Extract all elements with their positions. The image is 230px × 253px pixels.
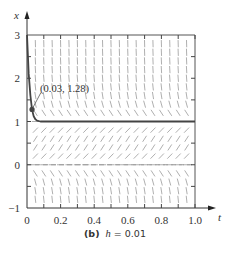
direction-field-segment (152, 92, 153, 99)
direction-field-segment (178, 92, 179, 99)
direction-field-segment (50, 128, 55, 133)
direction-field-segment (151, 170, 155, 176)
direction-field-segment (94, 196, 95, 203)
direction-field-segment (152, 179, 154, 186)
direction-field-segment (68, 179, 70, 186)
direction-field-segment (52, 187, 53, 194)
direction-field-segment (41, 128, 46, 133)
direction-field-segment (102, 196, 103, 203)
direction-field-segment (101, 110, 105, 116)
direction-field-segment (144, 179, 146, 186)
direction-field-segment (35, 92, 36, 99)
direction-field-segment (136, 83, 137, 90)
direction-field-segment (161, 187, 162, 194)
direction-field-segment (86, 75, 87, 82)
direction-field-segment (50, 170, 54, 176)
direction-field-segment (144, 101, 146, 108)
direction-field-segment (102, 187, 103, 194)
direction-field-segment (59, 144, 63, 150)
direction-field-segment (108, 154, 113, 159)
direction-field-segment (69, 75, 70, 82)
direction-field-segment (159, 128, 164, 133)
x-tick-label: 0 (24, 214, 30, 226)
y-tick-label: 3 (15, 29, 21, 41)
direction-field-segment (111, 196, 112, 203)
direction-field-segment (176, 154, 181, 159)
direction-field-segment (143, 144, 147, 150)
direction-field-segment (67, 110, 71, 116)
direction-field-segment (76, 179, 78, 186)
direction-field-segment (119, 187, 120, 194)
x-tick-label: 0.2 (54, 214, 68, 226)
direction-field-segment (109, 110, 113, 116)
y-axis-label: x (13, 9, 19, 21)
direction-field-segment (44, 75, 45, 82)
direction-field-segment (75, 136, 79, 142)
direction-field-segment (50, 110, 54, 116)
direction-field-segment (159, 144, 163, 150)
y-axis-arrow-icon (25, 11, 30, 19)
direction-field-segment (33, 170, 37, 176)
direction-field-segment (185, 170, 189, 176)
direction-field-segment (102, 83, 103, 90)
x-tick-label: 0.4 (87, 214, 101, 226)
x-axis-label: t (218, 211, 222, 223)
direction-field-segment (111, 83, 112, 90)
direction-field-segment (144, 83, 145, 90)
direction-field-segment (84, 144, 88, 150)
direction-field-segment (52, 75, 53, 82)
direction-field-segment (67, 144, 71, 150)
caption-variable: h (106, 228, 111, 239)
direction-field-segment (167, 128, 172, 133)
direction-field-segment (128, 75, 129, 82)
direction-field-segment (75, 154, 80, 159)
direction-field-segment (66, 128, 71, 133)
direction-field-segment (159, 110, 163, 116)
figure-caption: (b) h = 0.01 (0, 228, 230, 239)
direction-field-segment (85, 101, 87, 108)
direction-field-segment (50, 136, 54, 142)
direction-field-segment (176, 110, 180, 116)
direction-field-segment (41, 154, 46, 159)
direction-field-segment (94, 92, 95, 99)
direction-field-segment (184, 128, 189, 133)
direction-field-segment (127, 179, 129, 186)
direction-field-segment (153, 196, 154, 203)
direction-field-segment (168, 110, 172, 116)
direction-field-segment (117, 144, 121, 150)
direction-field-segment (33, 154, 38, 159)
chart: tx00.20.40.60.81.0−10123 (0.03, 1.28) (0, 0, 230, 226)
direction-field-segment (161, 92, 162, 99)
direction-field-segment (102, 92, 103, 99)
direction-field-segment (100, 128, 105, 133)
direction-field-segment (117, 170, 121, 176)
direction-field-segment (186, 75, 187, 82)
direction-field-segment (127, 83, 128, 90)
direction-field-segment (126, 110, 130, 116)
direction-field-segment (85, 196, 86, 203)
direction-field-segment (58, 128, 63, 133)
direction-field-segment (67, 136, 71, 142)
direction-field-segment (144, 75, 145, 82)
direction-field-segment (177, 179, 179, 186)
direction-field-segment (168, 144, 172, 150)
direction-field-segment (185, 136, 189, 142)
direction-field-segment (136, 196, 137, 203)
direction-field-segment (151, 110, 155, 116)
direction-field-segment (117, 136, 121, 142)
direction-field-segment (92, 136, 96, 142)
direction-field-segment (75, 170, 79, 176)
direction-field-segment (110, 92, 111, 99)
direction-field-segment (92, 110, 96, 116)
direction-field-segment (186, 101, 188, 108)
direction-field-segment (169, 179, 171, 186)
y-tick-label: 0 (15, 159, 21, 171)
direction-field-segment (159, 154, 164, 159)
caption-label: (b) (84, 228, 99, 239)
direction-field-segment (119, 75, 120, 82)
direction-field-segment (153, 75, 154, 82)
direction-field-segment (185, 110, 189, 116)
direction-field-segment (77, 75, 78, 82)
direction-field-segment (169, 101, 171, 108)
direction-field-segment (160, 179, 162, 186)
